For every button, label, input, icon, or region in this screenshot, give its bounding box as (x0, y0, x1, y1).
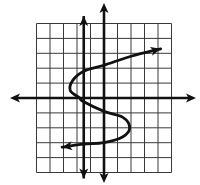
graph-canvas (0, 0, 200, 185)
coordinate-plane-figure (0, 0, 200, 185)
axes (10, 3, 196, 183)
